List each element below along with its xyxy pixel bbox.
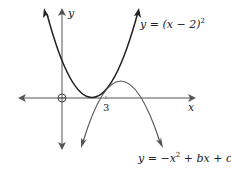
tick-label-3: 3 (103, 102, 109, 113)
diagram-canvas: y x 3 y = (x − 2)2 y = −x2 + bx + c (0, 0, 231, 172)
downward-parabola-label-post: + bx + c (180, 152, 231, 165)
upward-parabola-label-main: y = (x − 2) (139, 18, 200, 31)
x-axis-label: x (188, 101, 195, 114)
downward-parabola-label: y = −x2 + bx + c (137, 151, 231, 165)
upward-parabola-label-exp: 2 (200, 17, 204, 25)
downward-parabola-label-pre: y = −x (137, 152, 177, 165)
y-axis-label: y (67, 7, 75, 20)
upward-parabola-label: y = (x − 2)2 (139, 17, 205, 31)
curve-upward-parabola (47, 12, 138, 98)
curve-downward-parabola (83, 81, 160, 142)
